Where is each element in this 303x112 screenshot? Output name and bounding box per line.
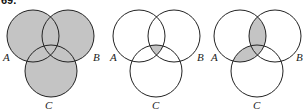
label-c: C bbox=[152, 99, 160, 111]
venn-diagram-3: A B C bbox=[210, 10, 303, 111]
circle-b bbox=[148, 10, 200, 62]
venn-diagrams: A B C A B C A B C bbox=[0, 0, 303, 112]
venn-diagram-1: A B C bbox=[2, 10, 100, 111]
label-b: B bbox=[197, 51, 204, 63]
label-c: C bbox=[253, 99, 261, 111]
circle-a bbox=[113, 10, 165, 62]
label-c: C bbox=[45, 99, 53, 111]
label-b: B bbox=[296, 51, 303, 63]
label-b: B bbox=[93, 51, 100, 63]
label-a: A bbox=[2, 51, 10, 63]
venn-diagram-2: A B C bbox=[109, 10, 204, 111]
label-a: A bbox=[210, 51, 218, 63]
label-a: A bbox=[109, 51, 117, 63]
